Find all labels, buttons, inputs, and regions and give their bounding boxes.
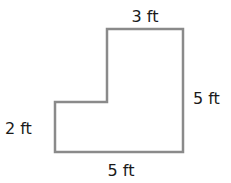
label-top: 3 ft <box>132 7 159 26</box>
l-shape-diagram: 3 ft 5 ft 2 ft 5 ft <box>0 0 231 183</box>
label-bottom: 5 ft <box>108 161 135 180</box>
label-right: 5 ft <box>193 89 220 108</box>
l-shape-outline <box>55 29 183 152</box>
label-left: 2 ft <box>5 119 32 138</box>
